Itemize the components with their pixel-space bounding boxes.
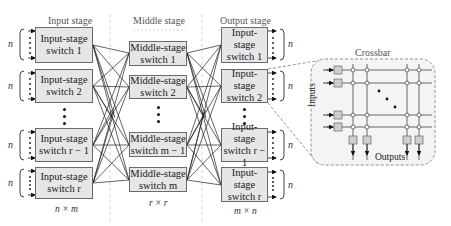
output-port-count-3: n xyxy=(288,139,293,150)
input-middle-links xyxy=(93,45,129,183)
middle-output-links xyxy=(187,45,221,185)
middle-ellipsis xyxy=(157,106,160,127)
input-switch-r-minus-1: Input-stage switch r − 1 xyxy=(35,128,93,162)
input-port-count-2: n xyxy=(8,80,13,91)
input-switch-2: Input-stage switch 2 xyxy=(35,69,93,103)
output-port-count-1: n xyxy=(288,38,293,49)
output-stage-dimension: m × n xyxy=(234,206,257,216)
output-stage-title: Output stage xyxy=(220,15,271,26)
middle-switch-m: Middle-stage switch m xyxy=(129,167,187,192)
input-switch-1: Input-stage switch 1 xyxy=(35,27,93,63)
middle-stage-title: Middle stage xyxy=(133,15,185,26)
input-switch-r: Input-stage switch r xyxy=(35,167,93,199)
crossbar-inputs-label: Inputs xyxy=(307,83,317,107)
input-port-count-4: n xyxy=(8,177,13,188)
output-port-count-2: n xyxy=(288,80,293,91)
output-switch-r: Input-stage switch r xyxy=(221,167,268,202)
input-port-count-3: n xyxy=(8,139,13,150)
middle-switch-m-minus-1: Middle-stage switch m − 1 xyxy=(129,132,187,157)
output-port-count-4: n xyxy=(288,179,293,190)
input-ports xyxy=(20,29,35,197)
middle-stage-dimension: r × r xyxy=(149,198,168,208)
output-switch-2: Input-stage switch 2 xyxy=(221,69,268,103)
crossbar-detail xyxy=(311,59,435,165)
crossbar-title: Crossbar xyxy=(355,47,391,58)
input-ellipsis xyxy=(63,108,66,129)
input-port-count-1: n xyxy=(8,38,13,49)
output-switch-r-minus-1: Input-stage switch r − 1 xyxy=(221,128,268,162)
output-ports xyxy=(268,29,284,199)
middle-switch-1: Middle-stage switch 1 xyxy=(129,41,187,66)
crossbar-outputs-label: Outputs xyxy=(375,152,405,162)
middle-switch-2: Middle-stage switch 2 xyxy=(129,75,187,99)
input-stage-title: Input stage xyxy=(48,15,92,26)
input-stage-dimension: n × m xyxy=(55,204,78,214)
output-switch-1: Input-stage switch 1 xyxy=(221,27,268,63)
